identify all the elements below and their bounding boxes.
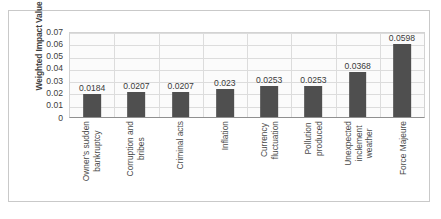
bar-value-label: 0.0184 — [79, 83, 105, 93]
y-axis-tick-label: 0 — [33, 114, 63, 123]
x-axis-label-line: fluctuation — [269, 121, 280, 159]
x-axis-category-label: Force Majeure — [398, 121, 409, 175]
x-axis-label-line: produced — [314, 121, 325, 156]
bar-slot: 0.0207 — [114, 33, 158, 117]
bar-slot: 0.0207 — [159, 33, 203, 117]
bar-value-label: 0.0368 — [344, 61, 370, 71]
bar[interactable] — [172, 92, 190, 117]
x-axis-label-line: Currency — [259, 121, 270, 159]
y-axis-tick-labels: 0.070.060.050.040.030.020.010 — [33, 27, 63, 121]
bar[interactable] — [349, 72, 367, 117]
x-label-slot: Force Majeure — [381, 119, 426, 201]
y-axis-tick-label: 0.04 — [33, 64, 63, 73]
bar[interactable] — [393, 44, 411, 117]
x-axis-category-label: Unexpectedinclementweather — [343, 121, 375, 166]
x-axis-category-label: Pollutionproduced — [303, 121, 324, 156]
bar-slot: 0.0368 — [336, 33, 380, 117]
bar-value-label: 0.0598 — [389, 33, 415, 43]
x-axis-label-line: Owner's sudden — [81, 121, 92, 181]
x-axis-label-line: Corruption and — [125, 121, 136, 176]
y-axis-tick-label: 0.03 — [33, 77, 63, 86]
x-axis-category-label: Corruption andbribes — [125, 121, 146, 176]
y-axis-tick-label: 0.01 — [33, 101, 63, 110]
bar-slot: 0.0253 — [247, 33, 291, 117]
x-label-slot: Unexpectedinclementweather — [336, 119, 381, 201]
x-axis-label-line: bribes — [136, 121, 147, 176]
y-axis-tick-label: 0.06 — [33, 40, 63, 49]
bar-value-label: 0.023 — [214, 78, 236, 88]
bar-series: 0.01840.02070.02070.0230.02530.02530.036… — [70, 33, 424, 117]
x-axis-label-line: Unexpected — [343, 121, 354, 166]
x-label-slot: Pollutionproduced — [292, 119, 337, 201]
bar[interactable] — [83, 94, 101, 117]
bar[interactable] — [128, 92, 146, 117]
x-axis-label-line: bankruptcy — [91, 121, 102, 181]
bar-slot: 0.0253 — [291, 33, 335, 117]
x-axis-label-line: weather — [364, 121, 375, 166]
chart-container: Weighted Impact Value 0.070.060.050.040.… — [8, 10, 430, 202]
x-axis-label-line: Criminal acts — [175, 121, 186, 169]
x-label-slot: Owner's suddenbankruptcy — [69, 119, 114, 201]
bar-value-label: 0.0207 — [123, 81, 149, 91]
bar-value-label: 0.0207 — [167, 81, 193, 91]
bar[interactable] — [216, 89, 234, 117]
x-axis-label-line: Pollution — [303, 121, 314, 156]
x-label-slot: Currencyfluctuation — [247, 119, 292, 201]
x-axis-category-label: Owner's suddenbankruptcy — [81, 121, 102, 181]
bar-value-label: 0.0253 — [256, 75, 282, 85]
bar[interactable] — [305, 86, 323, 117]
x-axis-category-label: Inflation — [220, 121, 231, 150]
x-label-slot: Criminal acts — [158, 119, 203, 201]
x-axis-category-label: Currencyfluctuation — [259, 121, 280, 159]
bar-slot: 0.0598 — [380, 33, 424, 117]
y-axis-tick-label: 0.05 — [33, 52, 63, 61]
x-label-slot: Corruption andbribes — [114, 119, 159, 201]
bar-value-label: 0.0253 — [300, 75, 326, 85]
x-axis-label-line: Force Majeure — [398, 121, 409, 175]
x-axis-label-line: inclement — [353, 121, 364, 166]
bar-slot: 0.0184 — [70, 33, 114, 117]
bar[interactable] — [260, 86, 278, 117]
y-axis-tick-label: 0.07 — [33, 28, 63, 37]
x-axis-category-labels: Owner's suddenbankruptcyCorruption andbr… — [69, 119, 425, 201]
y-axis-tick-label: 0.02 — [33, 89, 63, 98]
x-axis-category-label: Criminal acts — [175, 121, 186, 169]
bar-slot: 0.023 — [203, 33, 247, 117]
x-axis-label-line: Inflation — [220, 121, 231, 150]
x-label-slot: Inflation — [203, 119, 248, 201]
plot-area: 0.01840.02070.02070.0230.02530.02530.036… — [69, 32, 425, 118]
